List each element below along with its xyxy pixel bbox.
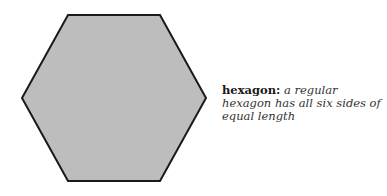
caption-term: hexagon: (222, 83, 280, 97)
hexagon-polygon (22, 15, 206, 181)
hexagon-figure: hexagon: a regular hexagon has all six s… (0, 0, 387, 196)
hexagon-shape (0, 0, 240, 196)
hexagon-caption: hexagon: a regular hexagon has all six s… (222, 84, 387, 123)
